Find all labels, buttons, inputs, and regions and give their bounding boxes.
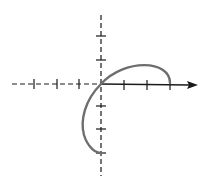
diagram xyxy=(0,0,207,189)
curve xyxy=(83,65,170,153)
plot-canvas xyxy=(0,0,207,189)
x-axis-positive xyxy=(101,84,190,85)
